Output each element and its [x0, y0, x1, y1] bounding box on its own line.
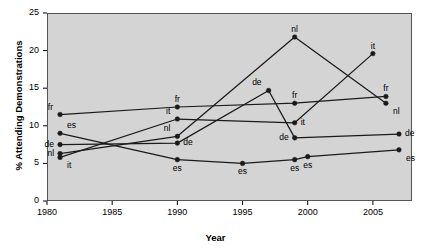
point-label-fr-1990: fr: [167, 95, 187, 104]
point-label-it-1990: it: [150, 107, 170, 116]
point-label-de-1999: de: [269, 133, 289, 142]
point-label-fr-2006: fr: [376, 84, 396, 93]
data-point-de-1990: [175, 141, 180, 146]
point-label-de-2007: de: [405, 129, 414, 138]
data-point-es-1990: [175, 157, 180, 162]
data-point-fr-1999: [292, 101, 297, 106]
data-point-es-1995: [240, 161, 245, 166]
point-label-it-1999: it: [301, 118, 305, 127]
data-point-es-1981: [58, 131, 63, 136]
y-axis-title: % Attending Demonstrations: [13, 6, 24, 206]
point-label-de-1981: de: [34, 140, 54, 149]
data-point-de-2007: [397, 132, 402, 137]
series-line-fr: [60, 96, 386, 114]
chart-container: 0510152025198019851990199520002005 frfrf…: [0, 0, 431, 248]
point-label-nl-1981: nl: [34, 149, 54, 158]
data-point-nl-1990: [175, 134, 180, 139]
data-point-de-1997: [266, 88, 271, 93]
point-label-nl-2006: nl: [393, 107, 400, 116]
point-label-nl-1999: nl: [285, 25, 305, 34]
data-point-fr-1990: [175, 105, 180, 110]
data-point-it-1981: [58, 155, 63, 160]
point-label-fr-1999: fr: [285, 91, 305, 100]
data-point-de-1999: [292, 136, 297, 141]
x-tick-label: 1990: [157, 207, 197, 217]
data-point-it-2005: [371, 51, 376, 56]
point-label-es-2000: es: [298, 161, 318, 170]
data-point-it-1999: [292, 120, 297, 125]
series-line-es: [60, 133, 399, 163]
x-axis-title: Year: [0, 232, 431, 243]
point-label-it-2005: it: [363, 42, 383, 51]
point-label-de-1997: de: [242, 78, 262, 87]
data-point-fr-2006: [384, 94, 389, 99]
data-point-de-1981: [58, 142, 63, 147]
point-label-es-1981: es: [67, 121, 76, 130]
data-point-nl-1999: [292, 35, 297, 40]
x-tick-label: 1985: [92, 207, 132, 217]
data-point-nl-2006: [384, 101, 389, 106]
series-line-de: [60, 90, 399, 144]
point-label-es-1990: es: [167, 164, 187, 173]
data-point-es-1999: [292, 157, 297, 162]
data-point-fr-1981: [58, 112, 63, 117]
series-lines: [60, 37, 399, 163]
x-tick-label: 1995: [223, 207, 263, 217]
x-tick-label: 2005: [353, 207, 393, 217]
data-point-it-1990: [175, 117, 180, 122]
data-point-es-2007: [397, 148, 402, 153]
x-tick-label: 1980: [27, 207, 67, 217]
point-label-de-1990: de: [183, 138, 192, 147]
point-label-fr-1981: fr: [33, 103, 53, 112]
point-label-nl-1990: nl: [150, 124, 170, 133]
x-tick-label: 2000: [288, 207, 328, 217]
point-label-es-2007: es: [406, 154, 415, 163]
point-label-es-1995: es: [233, 167, 253, 176]
data-point-es-2000: [305, 154, 310, 159]
point-label-it-1981: it: [67, 161, 71, 170]
axis-tick-marks: [43, 13, 373, 205]
